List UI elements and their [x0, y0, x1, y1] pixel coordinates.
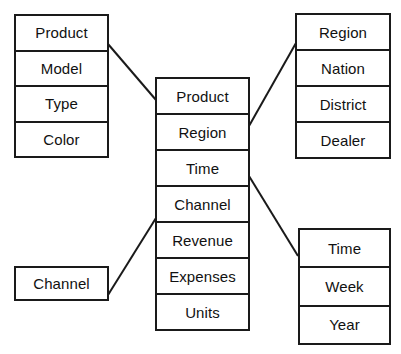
table-row[interactable]: Revenue	[157, 223, 248, 259]
row-label: Expenses	[169, 269, 236, 284]
row-label: Region	[178, 125, 226, 140]
table-row[interactable]: Nation	[297, 51, 389, 87]
connector-product-to-fact	[108, 44, 156, 100]
table-row[interactable]: District	[297, 87, 389, 123]
table-row[interactable]: Region	[297, 15, 389, 51]
row-label: Time	[328, 241, 361, 256]
row-label: Product	[35, 25, 87, 40]
row-label: Year	[329, 317, 360, 332]
table-row[interactable]: Product	[16, 16, 107, 52]
row-label: Channel	[33, 276, 90, 291]
row-label: Nation	[321, 61, 365, 76]
table-row[interactable]: Time	[157, 151, 248, 187]
table-row[interactable]: Channel	[16, 268, 107, 299]
row-label: Channel	[174, 197, 231, 212]
row-label: Region	[319, 25, 367, 40]
row-label: Week	[325, 279, 363, 294]
row-label: Dealer	[321, 133, 366, 148]
fact-table: Product Region Time Channel Revenue Expe…	[155, 77, 250, 331]
table-row[interactable]: Product	[157, 79, 248, 115]
row-label: Type	[45, 96, 78, 111]
row-label: Product	[176, 89, 228, 104]
table-row[interactable]: Color	[16, 123, 107, 157]
table-row[interactable]: Dealer	[297, 123, 389, 157]
row-label: Revenue	[172, 233, 233, 248]
product-dimension-table: Product Model Type Color	[14, 14, 109, 158]
time-dimension-table: Time Week Year	[298, 228, 391, 345]
table-row[interactable]: Year	[300, 307, 389, 343]
table-row[interactable]: Units	[157, 295, 248, 329]
table-row[interactable]: Model	[16, 52, 107, 88]
channel-dimension-table: Channel	[14, 266, 109, 301]
connector-region-to-fact	[249, 43, 296, 126]
connector-time-to-fact	[249, 176, 298, 256]
row-label: Model	[41, 61, 82, 76]
table-row[interactable]: Expenses	[157, 259, 248, 295]
table-row[interactable]: Channel	[157, 187, 248, 223]
table-row[interactable]: Week	[300, 268, 389, 306]
connector-channel-to-fact	[108, 218, 156, 295]
table-row[interactable]: Type	[16, 87, 107, 123]
diagram-canvas: Product Model Type Color Product Region …	[0, 0, 401, 354]
row-label: Time	[186, 161, 219, 176]
row-label: District	[320, 97, 367, 112]
row-label: Color	[43, 132, 79, 147]
table-row[interactable]: Time	[300, 230, 389, 268]
table-row[interactable]: Region	[157, 115, 248, 151]
region-dimension-table: Region Nation District Dealer	[295, 13, 391, 159]
row-label: Units	[185, 305, 220, 320]
